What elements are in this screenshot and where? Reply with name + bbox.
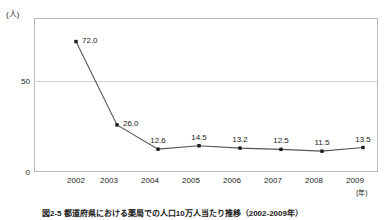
x-tick-label-2004: 2004 — [130, 176, 170, 186]
gridline-50 — [34, 81, 378, 82]
y-tick-label-50: 50 — [2, 77, 30, 86]
x-tick-label-2006: 2006 — [212, 176, 252, 186]
x-tick-label-2005: 2005 — [171, 176, 211, 186]
point-label-2003: 26.0 — [123, 119, 139, 128]
y-axis-unit-label: (人) — [6, 10, 19, 20]
point-label-2005: 14.5 — [189, 133, 209, 142]
point-label-2007: 12.5 — [271, 136, 291, 145]
y-tick-label-0: 0 — [2, 168, 30, 177]
chart-figure: (人) 0 50 2002 2003 2004 2005 2006 2007 2… — [0, 0, 392, 220]
x-axis-unit-label: (年) — [356, 189, 368, 197]
x-tick-label-2007: 2007 — [253, 176, 293, 186]
point-label-2008: 11.5 — [312, 138, 332, 147]
x-tick-label-2008: 2008 — [294, 176, 334, 186]
figure-caption: 図2-5 都道府県における薬局での人口10万人当たり推移（2002-2009年） — [42, 209, 372, 219]
x-tick-label-2009: 2009 — [335, 176, 375, 186]
point-label-2004: 12.6 — [148, 136, 168, 145]
point-label-2006: 13.2 — [230, 135, 250, 144]
point-label-2002: 72.0 — [82, 36, 98, 45]
point-label-2009: 13.5 — [353, 135, 373, 144]
x-tick-label-2003: 2003 — [89, 176, 129, 186]
